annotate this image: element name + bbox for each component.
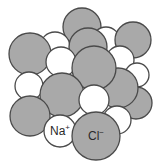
sodium-ion-sphere bbox=[79, 85, 109, 115]
chloride-ion-sphere bbox=[9, 33, 51, 75]
lattice-svg: Na+Cl− bbox=[0, 0, 160, 168]
nacl-lattice-diagram: Na+Cl− bbox=[0, 0, 160, 168]
ion-spheres bbox=[9, 8, 152, 160]
